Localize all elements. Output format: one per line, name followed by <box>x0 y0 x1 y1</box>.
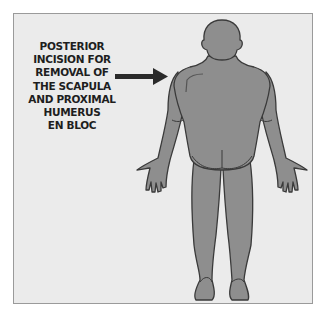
head <box>202 20 243 60</box>
body-diagram <box>0 0 326 318</box>
left-leg <box>192 160 221 300</box>
arrow-icon <box>115 68 168 85</box>
